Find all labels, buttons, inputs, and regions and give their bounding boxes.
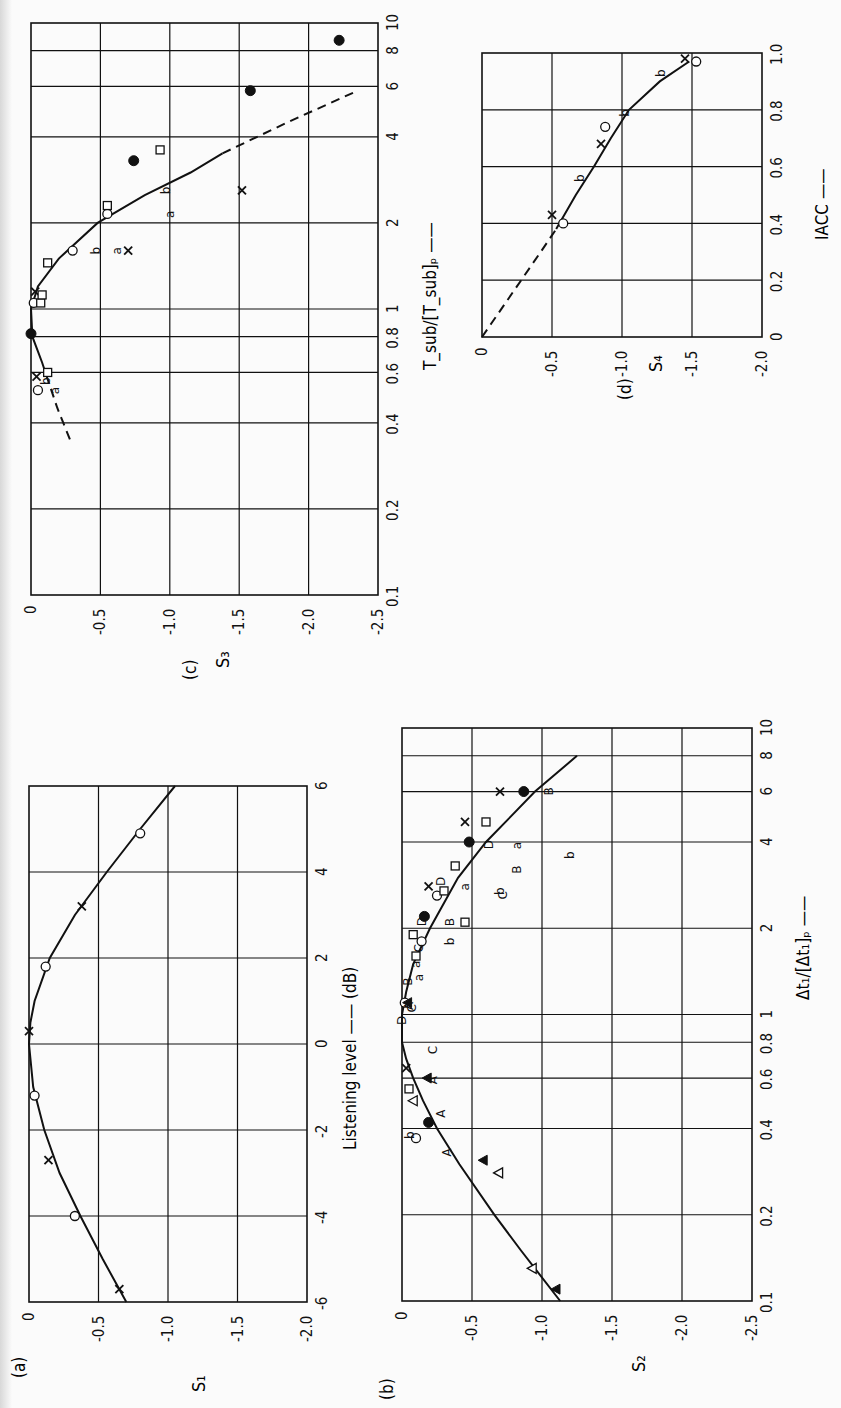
marker-letter-a: a <box>163 211 177 218</box>
marker-letter-B: B <box>542 787 556 795</box>
marker-letter-D: D <box>395 1016 409 1025</box>
marker-letter-b: b <box>39 377 53 385</box>
marker-letter-a: a <box>110 247 124 254</box>
x-tick-label: 0.8 <box>384 327 402 348</box>
fit-curve <box>31 153 223 383</box>
marker-letter-a: a <box>458 883 472 890</box>
y-tick-label: -1.5 <box>603 1315 621 1341</box>
x-tick-label: 0.4 <box>384 413 402 434</box>
marker-open-circle <box>68 246 77 255</box>
panel-b-y-axis-title: S₂ <box>628 1355 649 1372</box>
y-tick-label: -2.5 <box>369 609 387 635</box>
panel-b-x-axis-title: Δt₁/[Δt₁]ₚ —— <box>793 896 813 1000</box>
x-tick-label: 10 <box>384 14 402 31</box>
x-tick-label: 0 <box>768 332 786 341</box>
marker-letter-A: A <box>440 1147 454 1156</box>
marker-letter-b: b <box>159 187 173 195</box>
panel-c-y-axis-title: S₃ <box>212 651 233 668</box>
panel-a-y-axis-title: S₁ <box>188 1375 209 1392</box>
panel-d-x-axis-title: IACC —— <box>812 169 832 241</box>
marker-letter-B: B <box>510 866 524 874</box>
marker-letter-A: A <box>426 1075 440 1084</box>
marker-letter-b: b <box>89 247 103 255</box>
x-tick-label: 6 <box>758 787 776 796</box>
marker-letter-C: C <box>405 1004 419 1012</box>
marker-letter-D: D <box>482 840 496 849</box>
marker-open-square <box>409 931 417 939</box>
marker-letter-D: D <box>434 877 448 886</box>
marker-open-square <box>38 291 46 299</box>
marker-open-circle <box>30 1091 39 1100</box>
fit-curve-dashed <box>482 229 556 337</box>
panel-c-label: (c) <box>180 660 200 680</box>
marker-letter-A: A <box>434 1109 448 1118</box>
x-tick-label: 2 <box>758 924 776 933</box>
panel-d-chart: 0-0.5-1.0-1.5-2.000.20.40.60.81.0bbb <box>473 44 786 377</box>
y-tick-label: -1.0 <box>533 1315 551 1341</box>
marker-filled-circle <box>26 329 36 339</box>
marker-letter-a: a <box>409 961 423 968</box>
x-tick-label: 0.6 <box>384 363 402 384</box>
x-tick-label: 0.2 <box>768 271 786 292</box>
x-tick-label: -4 <box>313 1211 331 1224</box>
y-tick-label: -1.0 <box>159 1316 177 1342</box>
marker-letter-b: b <box>403 1131 417 1139</box>
marker-open-circle <box>136 829 145 838</box>
marker-filled-circle <box>245 86 255 96</box>
x-tick-label: 0.4 <box>758 1119 776 1140</box>
x-tick-label: 6 <box>313 781 331 790</box>
marker-letter-b: b <box>654 69 668 77</box>
marker-open-square <box>44 368 52 376</box>
marker-triangle-open <box>494 1168 503 1178</box>
marker-triangle-open <box>408 1096 417 1106</box>
y-tick-label: -1.0 <box>161 609 179 635</box>
marker-letter-C: C <box>426 1046 440 1054</box>
x-tick-label: 0.2 <box>384 499 402 520</box>
x-tick-label: 0.2 <box>758 1205 776 1226</box>
marker-filled-circle <box>129 156 139 166</box>
marker-open-square <box>44 259 52 267</box>
x-tick-label: -6 <box>313 1297 331 1310</box>
marker-letter-D: D <box>415 917 429 926</box>
marker-triangle-filled <box>478 1155 487 1165</box>
marker-open-circle <box>33 386 42 395</box>
marker-letter-a: a <box>412 974 426 981</box>
marker-open-circle <box>103 209 112 218</box>
marker-open-square <box>156 146 164 154</box>
x-tick-label: 10 <box>758 719 776 736</box>
x-tick-label: 0.1 <box>384 586 402 607</box>
x-tick-label: 2 <box>384 218 402 227</box>
panel-a-chart: 0-0.5-1.0-1.5-2.0-6-4-20246 <box>20 781 331 1342</box>
y-tick-label: -2.0 <box>298 1316 316 1342</box>
marker-open-square <box>482 818 490 826</box>
y-tick-label: -2.0 <box>300 609 318 635</box>
marker-open-circle <box>692 57 701 66</box>
marker-open-square <box>440 887 448 895</box>
panel-b-label: (b) <box>377 1378 397 1400</box>
y-tick-label: -0.5 <box>543 351 561 377</box>
marker-filled-circle <box>464 837 474 847</box>
y-tick-label: -0.5 <box>91 609 109 635</box>
x-tick-label: 0.6 <box>768 157 786 178</box>
x-tick-label: 4 <box>758 837 776 846</box>
panel-b-chart: 0-0.5-1.0-1.5-2.0-2.50.10.20.40.60.81246… <box>393 719 776 1341</box>
x-tick-label: 0.8 <box>758 1033 776 1054</box>
marker-letter-a: a <box>510 842 524 849</box>
panel-c-chart: 0-0.5-1.0-1.5-2.0-2.50.10.20.40.60.81246… <box>22 14 402 635</box>
marker-filled-circle <box>519 787 529 797</box>
marker-open-square <box>451 862 459 870</box>
y-tick-label: -2.0 <box>753 351 771 377</box>
fit-curve <box>402 756 577 1301</box>
y-tick-label: -0.5 <box>463 1315 481 1341</box>
marker-open-circle <box>70 1212 79 1221</box>
y-tick-label: 0 <box>20 1312 38 1321</box>
panel-d-label: (d) <box>615 378 635 400</box>
y-tick-label: 0 <box>473 347 491 356</box>
y-tick-label: 0 <box>22 605 40 614</box>
figure-svg: 0-0.5-1.0-1.5-2.0-6-4-20246 0-0.5-1.0-1.… <box>0 0 841 1408</box>
panel-a-x-axis-title: Listening level —— (dB) <box>340 967 360 1150</box>
marker-letter-b: b <box>563 851 577 859</box>
marker-open-square <box>37 299 45 307</box>
marker-open-square <box>405 1085 413 1093</box>
figure-page: 0-0.5-1.0-1.5-2.0-6-4-20246 0-0.5-1.0-1.… <box>0 0 841 1408</box>
